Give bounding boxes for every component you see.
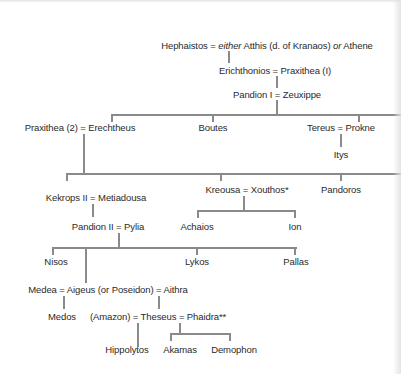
node-hippolytos: Hippolytos xyxy=(105,344,148,355)
edge-to-pandoros xyxy=(340,173,342,181)
node-hephaistos-pre: Hephaistos = xyxy=(161,40,218,51)
edge-to-kekrops2 xyxy=(66,173,68,181)
edge-to-aigeus xyxy=(85,247,87,283)
edge-to-erechtheus xyxy=(111,114,113,122)
node-ion: Ion xyxy=(289,221,302,232)
edge-to-ion xyxy=(294,210,296,218)
edge-erechtheus-children-bar xyxy=(66,173,401,175)
edge-pandion1-down xyxy=(276,100,278,115)
edge-aigeus-medos xyxy=(63,296,65,309)
node-nisos: Nisos xyxy=(44,256,67,267)
node-theseus: (Amazon) = Theseus = Phaidra** xyxy=(90,311,226,322)
edge-tereus-itys xyxy=(340,134,342,147)
node-medos: Medos xyxy=(48,311,76,322)
node-hephaistos-post: Athene xyxy=(341,40,373,51)
node-hephaistos-mid: Atthis (d. of Kranaos) xyxy=(241,40,333,51)
node-aigeus: Medea = Aigeus (or Poseidon) = Aithra xyxy=(28,284,187,295)
node-pandion1: Pandion I = Zeuxippe xyxy=(233,89,321,100)
node-pandion2: Pandion II = Pylia xyxy=(72,221,144,232)
node-pallas: Pallas xyxy=(283,256,308,267)
edge-to-boutes xyxy=(212,114,214,122)
edge-to-akamas xyxy=(170,333,172,341)
node-hephaistos: Hephaistos = either Atthis (d. of Kranao… xyxy=(161,40,373,51)
node-boutes: Boutes xyxy=(199,122,228,133)
node-kreousa: Kreousa = Xouthos* xyxy=(206,184,289,195)
edge-hephaistos-erichthonios xyxy=(228,51,230,63)
edge-to-tereus xyxy=(358,114,360,122)
edge-theseus-children-bar xyxy=(170,333,231,335)
page-top-shadow xyxy=(0,0,401,3)
node-hephaistos-or: or xyxy=(333,40,341,51)
node-demophon: Demophon xyxy=(211,344,257,355)
edge-to-demophon xyxy=(229,333,231,341)
node-hephaistos-either: either xyxy=(218,40,241,51)
edge-to-pallas xyxy=(294,247,296,255)
node-akamas: Akamas xyxy=(163,344,197,355)
node-pandoros: Pandoros xyxy=(321,184,361,195)
node-lykos: Lykos xyxy=(185,256,209,267)
node-erechtheus: Praxithea (2) = Erechtheus xyxy=(25,122,136,133)
edge-kreousa-children-bar xyxy=(197,210,296,212)
node-achaios: Achaios xyxy=(180,221,213,232)
node-tereus: Tereus = Prokne xyxy=(307,122,375,133)
page-gutter-shadow xyxy=(393,0,401,374)
node-kekrops2: Kekrops II = Metiadousa xyxy=(46,192,146,203)
edge-erichthonios-pandion1 xyxy=(276,76,278,88)
edge-pandion2-children-bar xyxy=(52,247,297,249)
edge-erechtheus-down xyxy=(83,134,85,174)
edge-kreousa-down xyxy=(243,196,245,210)
edge-kekrops2-pandion2 xyxy=(92,204,94,217)
edge-to-lykos xyxy=(196,247,198,255)
node-itys: Itys xyxy=(334,149,348,160)
edge-to-nisos xyxy=(52,247,54,255)
edge-aigeus-theseus xyxy=(158,296,160,309)
edge-pandion2-down xyxy=(118,233,120,247)
node-erichthonios: Erichthonios = Praxithea (I) xyxy=(219,65,331,76)
edge-to-kreousa xyxy=(220,173,222,181)
edge-to-achaios xyxy=(197,210,199,218)
family-tree-diagram: Hephaistos = either Atthis (d. of Kranao… xyxy=(0,0,401,374)
